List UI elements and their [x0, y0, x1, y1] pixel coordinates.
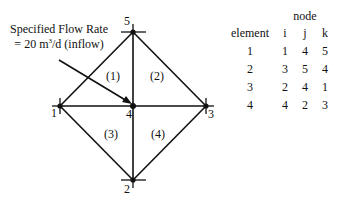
flow-arrow-head — [122, 96, 132, 104]
node-5-dot — [130, 29, 135, 34]
element-label-2: (2) — [150, 70, 164, 82]
table-row: 4 4 2 3 — [225, 96, 335, 114]
node-label-5: 5 — [124, 15, 130, 27]
edge-3-2 — [133, 106, 206, 180]
element-connectivity-table: node element i j k 1 1 4 5 2 3 5 4 — [225, 8, 335, 114]
column-header-k: k — [315, 24, 335, 42]
edge-5-3 — [133, 32, 206, 106]
column-header-element: element — [225, 24, 275, 42]
element-label-4: (4) — [151, 128, 165, 140]
specified-flow-annotation: Specified Flow Rate = 20 m3/d (inflow) — [4, 23, 114, 50]
node-label-3: 3 — [208, 108, 214, 120]
column-header-j: j — [295, 24, 315, 42]
node-1-dot — [57, 103, 62, 108]
flow-annotation-line2: = 20 m3/d (inflow) — [4, 35, 114, 50]
node-group-header: node — [275, 8, 335, 24]
flow-annotation-line1: Specified Flow Rate — [4, 23, 114, 35]
element-label-1: (1) — [106, 70, 120, 82]
node-label-2: 2 — [124, 183, 130, 195]
table-row: 2 3 5 4 — [225, 60, 335, 78]
edge-2-1 — [60, 106, 133, 180]
finite-element-mesh-diagram: 5 1 4 3 2 (1) (2) (3) (4) Specified Flow… — [0, 0, 344, 206]
table-row: 1 1 4 5 — [225, 42, 335, 60]
column-header-i: i — [275, 24, 295, 42]
node-2-dot — [130, 177, 135, 182]
node-label-4: 4 — [126, 108, 132, 120]
element-label-3: (3) — [104, 128, 118, 140]
node-label-1: 1 — [51, 107, 57, 119]
table-row: 3 2 4 1 — [225, 78, 335, 96]
